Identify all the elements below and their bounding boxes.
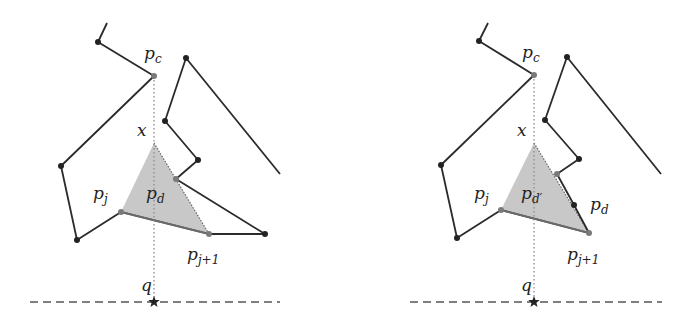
- label-x: x: [137, 120, 147, 140]
- star-icon: [528, 296, 539, 307]
- vertex-dot-gray: [118, 209, 124, 215]
- vertex-dot: [262, 231, 268, 237]
- vertex-dot: [58, 163, 64, 169]
- vertex-dot: [95, 39, 101, 45]
- vertex-dot: [564, 54, 570, 60]
- vertex-dot-gray: [531, 72, 537, 78]
- diagram-canvas: pcxpjpdpj+1q pcxpjpd′pdpj+1q: [0, 0, 694, 324]
- label-q: q: [141, 275, 152, 295]
- vertex-dot-gray: [498, 207, 504, 213]
- vertex-dot: [74, 237, 80, 243]
- vertex-dot: [542, 117, 548, 123]
- vertex-dot: [576, 156, 582, 162]
- vertex-dot: [571, 202, 577, 208]
- vertex-dot: [183, 55, 189, 61]
- vertex-dot: [438, 162, 444, 168]
- vertex-dot-gray: [151, 73, 157, 79]
- vertex-dot: [195, 157, 201, 163]
- label-pj: pj: [474, 183, 489, 206]
- right-panel: pcxpjpd′pdpj+1q: [410, 23, 662, 307]
- vertex-dot-gray: [173, 176, 179, 182]
- vertex-dot-gray: [554, 171, 560, 177]
- label-pd: pd: [590, 194, 609, 217]
- label-q: q: [521, 275, 532, 295]
- label-pj1: pj+1: [567, 244, 599, 267]
- left-panel: pcxpjpdpj+1q: [30, 23, 280, 307]
- vertex-dot: [454, 235, 460, 241]
- label-pj1: pj+1: [187, 244, 219, 267]
- vertex-dot: [162, 118, 168, 124]
- label-pj: pj: [93, 183, 108, 206]
- star-icon: [148, 296, 159, 307]
- label-pc: pc: [144, 43, 162, 66]
- vertex-dot-gray: [206, 231, 212, 237]
- vertex-dot: [476, 38, 482, 44]
- vertex-dot-gray: [586, 230, 592, 236]
- label-pc: pc: [522, 42, 540, 65]
- label-x: x: [517, 120, 527, 140]
